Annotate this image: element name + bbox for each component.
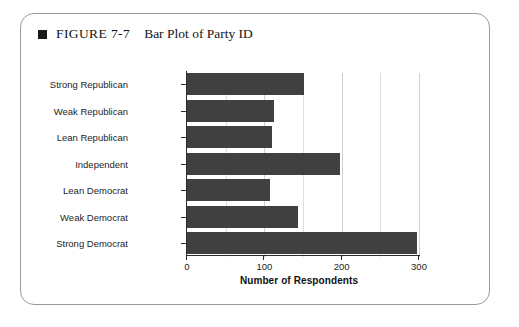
- figure-number: FIGURE 7-7: [56, 26, 130, 42]
- bar-row: [187, 179, 419, 201]
- y-axis-tick: [181, 84, 186, 85]
- figure-caption: FIGURE 7-7 Bar Plot of Party ID: [38, 26, 253, 42]
- bar: [187, 100, 274, 122]
- bar: [187, 179, 270, 201]
- y-axis-label: Lean Democrat: [63, 185, 128, 196]
- x-axis-line: [186, 255, 420, 256]
- bar: [187, 153, 340, 175]
- y-axis-tick: [181, 164, 186, 165]
- bar-row: [187, 232, 419, 254]
- gridline-major: [419, 73, 420, 257]
- figure-card: FIGURE 7-7 Bar Plot of Party ID Strong R…: [20, 13, 490, 305]
- plot-area: [187, 73, 419, 254]
- y-axis-label: Weak Republican: [54, 106, 128, 117]
- y-axis-line: [186, 71, 187, 256]
- y-axis-tick: [181, 137, 186, 138]
- bar: [187, 206, 298, 228]
- x-axis-label: 200: [334, 261, 350, 272]
- y-axis-tick: [181, 111, 186, 112]
- bar: [187, 73, 304, 95]
- bar-row: [187, 100, 419, 122]
- bar: [187, 232, 417, 254]
- bar-row: [187, 153, 419, 175]
- x-axis-label: 0: [184, 261, 189, 272]
- figure-title: Bar Plot of Party ID: [144, 26, 253, 42]
- y-axis-tick: [181, 190, 186, 191]
- y-axis-label: Lean Republican: [57, 132, 128, 143]
- y-axis-label: Strong Democrat: [56, 238, 128, 249]
- bar-series: [187, 73, 419, 254]
- y-axis-tick: [181, 217, 186, 218]
- square-bullet-icon: [38, 30, 47, 39]
- x-axis-tick: [341, 256, 342, 260]
- x-axis-label: 300: [411, 261, 427, 272]
- bar-row: [187, 206, 419, 228]
- bar: [187, 126, 272, 148]
- x-axis-title-text: Number of Respondents: [240, 275, 358, 286]
- y-axis-label: Strong Republican: [50, 79, 128, 90]
- y-axis-tick: [181, 243, 186, 244]
- y-axis-label: Weak Democrat: [60, 212, 128, 223]
- bar-row: [187, 126, 419, 148]
- x-axis-title: Number of Respondents: [21, 275, 491, 286]
- y-axis-label: Independent: [75, 159, 128, 170]
- x-axis-tick: [186, 256, 187, 260]
- bar-row: [187, 73, 419, 95]
- x-axis-tick: [263, 256, 264, 260]
- x-axis-label: 100: [256, 261, 272, 272]
- x-axis-tick: [418, 256, 419, 260]
